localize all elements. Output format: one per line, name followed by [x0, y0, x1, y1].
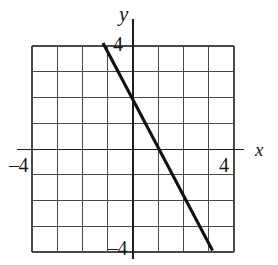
x-axis-label: x — [255, 140, 263, 159]
y-axis-tick-label-negative-four: –4 — [108, 238, 127, 258]
y-axis-tick-label-positive-four: 4 — [113, 34, 123, 54]
y-axis-label: y — [119, 4, 128, 25]
x-axis-tick-label-positive-four: 4 — [219, 155, 229, 175]
x-axis-tick-label-negative-four: –4 — [9, 155, 28, 175]
graph-figure: y x 4 –4 4 –4 — [0, 0, 278, 265]
figure-background — [0, 0, 278, 265]
coordinate-plane — [0, 0, 278, 265]
